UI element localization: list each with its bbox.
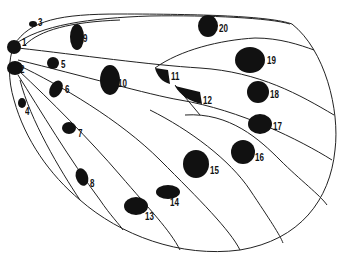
spot-label: 6 — [65, 85, 69, 95]
spot-label: 3 — [38, 18, 42, 28]
spot-label: 9 — [83, 34, 87, 44]
spot-label: 17 — [273, 122, 282, 132]
spot-label: 10 — [118, 79, 127, 89]
spot-label: 1 — [22, 38, 26, 48]
spot-label: 19 — [267, 56, 276, 66]
spot-label: 14 — [170, 198, 179, 208]
spot-label: 11 — [171, 72, 179, 82]
spot-label: 12 — [203, 96, 212, 106]
spot-label: 20 — [219, 24, 228, 34]
wing-diagram: 1 2 3 4 5 6 7 8 9 10 11 12 13 14 15 16 1… — [0, 0, 343, 258]
spot-label: 7 — [78, 129, 82, 139]
spot-label: 8 — [90, 179, 94, 189]
spot-label: 13 — [145, 212, 154, 222]
wing-outline — [0, 0, 343, 258]
spot-label: 18 — [270, 90, 279, 100]
spot-label: 5 — [61, 60, 65, 70]
spot-label: 4 — [25, 107, 29, 117]
spot-label: 2 — [20, 65, 24, 75]
spot-label: 15 — [210, 166, 219, 176]
spot-label: 16 — [255, 153, 264, 163]
